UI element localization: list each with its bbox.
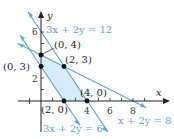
y-axis-label: y	[46, 10, 53, 21]
arrowhead-icon	[102, 126, 108, 132]
x-tick-6: 6	[107, 106, 113, 116]
arrowhead-icon	[20, 35, 25, 41]
equation-x-2y-8: x + 2y = 8	[118, 115, 172, 126]
feasible-region-graph: 4 6 8 2 6 x y (0, 4) (2, 3) (0, 3) (2, 0…	[0, 0, 174, 139]
arrowhead-icon	[140, 103, 146, 108]
vertex-label-2-0: (2, 0)	[41, 104, 68, 115]
equation-3x-2y-12: 3x + 2y = 12	[46, 24, 112, 35]
leader-line	[41, 48, 54, 55]
x-tick-4: 4	[84, 106, 90, 116]
vertex-label-2-3: (2, 3)	[65, 54, 92, 65]
vertex-0-3	[39, 64, 44, 69]
equation-3x-2y-6: 3x + 2y = 6	[43, 123, 103, 134]
y-tick-2: 2	[32, 74, 38, 84]
x-axis-label: x	[156, 87, 162, 98]
vertex-label-4-0: (4, 0)	[80, 87, 107, 98]
x-axis-arrow-icon	[163, 98, 170, 104]
vertex-label-0-3: (0, 3)	[3, 61, 30, 72]
vertex-4-0	[85, 99, 90, 104]
vertex-label-0-4: (0, 4)	[54, 39, 81, 50]
y-axis-arrow-icon	[38, 11, 44, 18]
vertex-2-0	[62, 99, 67, 104]
arrowhead-icon	[28, 12, 33, 18]
arrowhead-icon	[18, 44, 24, 49]
y-tick-6: 6	[32, 27, 38, 37]
